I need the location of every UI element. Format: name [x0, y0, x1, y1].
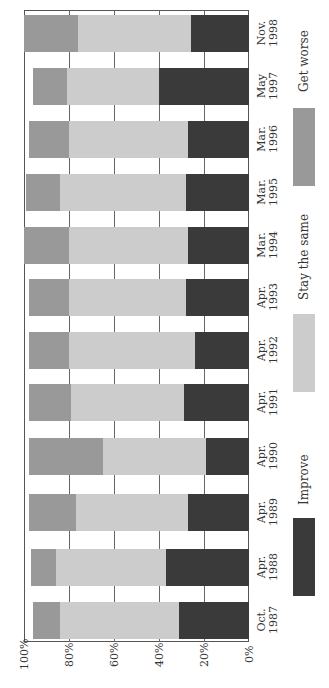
x-axis-label: Nov.1998 — [256, 19, 280, 47]
bar-segment-get-worse — [29, 384, 72, 421]
x-axis-label: Mar.1994 — [256, 231, 280, 259]
bar-segment-get-worse — [29, 494, 76, 531]
bar-segment-improve — [191, 15, 250, 52]
x-axis-label: Apr.1989 — [256, 498, 280, 526]
bar-segment-stay-the-same — [69, 121, 188, 158]
y-tick-label: 60% — [108, 642, 121, 666]
legend-label: Improve — [297, 454, 311, 505]
x-axis-label: Apr.1988 — [256, 553, 280, 581]
y-tick-label: 40% — [153, 642, 166, 666]
bar-segment-improve — [188, 121, 249, 158]
bar-segment-stay-the-same — [69, 279, 186, 316]
x-axis-label: Apr.1992 — [256, 336, 280, 364]
x-axis-label: Apr.1991 — [256, 388, 280, 416]
bar-segment-improve — [195, 332, 249, 369]
bar-segment-get-worse — [29, 279, 70, 316]
bar-segment-get-worse — [29, 332, 70, 369]
bar-segment-stay-the-same — [78, 15, 191, 52]
bar-segment-get-worse — [31, 549, 56, 586]
bar-segment-stay-the-same — [56, 549, 166, 586]
stacked-bar-chart: 0%20%40%60%80%100% Oct.1987Apr.1988Apr.1… — [0, 0, 329, 688]
x-axis-label: Mar.1996 — [256, 125, 280, 153]
legend-swatch-improve — [293, 518, 315, 596]
bar-segment-improve — [188, 494, 249, 531]
y-tick-label: 100% — [18, 639, 31, 670]
bar-segment-improve — [188, 227, 249, 264]
legend-swatch-get-worse — [293, 108, 315, 186]
plot-frame — [24, 10, 249, 642]
bar-segment-improve — [159, 68, 249, 105]
gridline — [69, 10, 70, 642]
y-tick-label: 0% — [243, 646, 256, 663]
bar-segment-stay-the-same — [76, 494, 189, 531]
bar-segment-get-worse — [33, 602, 60, 639]
x-axis-label: May1997 — [256, 72, 280, 100]
legend-swatch-stay-the-same — [293, 314, 315, 392]
y-tick-label: 80% — [63, 642, 76, 666]
bar-segment-get-worse — [29, 438, 103, 475]
bar-segment-improve — [186, 174, 249, 211]
bar-segment-get-worse — [24, 15, 78, 52]
bar-segment-stay-the-same — [60, 174, 186, 211]
bar-segment-improve — [186, 279, 249, 316]
x-axis-label: Oct.1987 — [256, 606, 280, 634]
legend-label: Get worse — [297, 30, 311, 92]
bar-segment-stay-the-same — [103, 438, 207, 475]
x-axis-label: Mar.1995 — [256, 178, 280, 206]
legend-label: Stay the same — [297, 214, 311, 300]
bar-segment-get-worse — [24, 227, 69, 264]
bar-segment-stay-the-same — [69, 332, 195, 369]
bar-segment-get-worse — [26, 174, 60, 211]
x-axis-label: Apr.1990 — [256, 442, 280, 470]
bar-segment-stay-the-same — [71, 384, 184, 421]
gridline — [159, 10, 160, 642]
bar-segment-get-worse — [33, 68, 67, 105]
bar-segment-stay-the-same — [69, 227, 188, 264]
bar-segment-improve — [184, 384, 249, 421]
y-tick-label: 20% — [198, 642, 211, 666]
x-axis-label: Apr.1993 — [256, 283, 280, 311]
bar-segment-stay-the-same — [60, 602, 179, 639]
gridline — [204, 10, 205, 642]
bar-segment-improve — [179, 602, 249, 639]
bar-segment-stay-the-same — [67, 68, 159, 105]
bar-segment-get-worse — [29, 121, 70, 158]
gridline — [114, 10, 115, 642]
bar-segment-improve — [166, 549, 249, 586]
bar-segment-improve — [206, 438, 249, 475]
